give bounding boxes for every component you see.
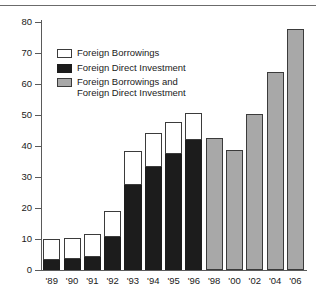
bar-segment-borrowings[interactable] <box>64 238 81 259</box>
bar-segment-combined[interactable] <box>267 72 284 270</box>
x-axis-tick-label: '04 <box>267 276 284 286</box>
legend-item[interactable]: Foreign Borrowings and Foreign Direct In… <box>57 77 222 98</box>
y-axis-tick-label: 30 <box>21 172 32 182</box>
y-axis-tick <box>35 177 41 178</box>
y-axis-tick-label: 80 <box>21 17 32 27</box>
x-axis-tick-label: '96 <box>185 276 202 286</box>
y-axis-tick-label: 50 <box>21 110 32 120</box>
x-axis-tick-label: '91 <box>84 276 101 286</box>
x-axis-tick-label: '95 <box>165 276 182 286</box>
bar-segment-borrowings[interactable] <box>43 239 60 260</box>
bar-group[interactable] <box>267 22 284 270</box>
bar-segment-fdi[interactable] <box>145 167 162 270</box>
x-axis-tick-label: '90 <box>64 276 81 286</box>
y-axis-tick <box>35 208 41 209</box>
y-axis-tick <box>35 270 41 271</box>
bar-segment-fdi[interactable] <box>104 237 121 270</box>
bar-segment-fdi[interactable] <box>124 185 141 270</box>
bar-segment-borrowings[interactable] <box>165 122 182 153</box>
x-axis-tick-label: '93 <box>124 276 141 286</box>
bar-segment-borrowings[interactable] <box>124 151 141 184</box>
bar-segment-borrowings[interactable] <box>185 113 202 140</box>
y-axis-tick-label: 20 <box>21 203 32 213</box>
bar-segment-borrowings[interactable] <box>145 133 162 167</box>
y-axis-tick <box>35 115 41 116</box>
legend-swatch-white <box>57 49 72 58</box>
bar-segment-fdi[interactable] <box>43 260 60 270</box>
x-axis-tick-label: '02 <box>246 276 263 286</box>
legend-item-label: Foreign Borrowings <box>77 48 159 59</box>
bar-segment-combined[interactable] <box>226 150 243 270</box>
bar-segment-combined[interactable] <box>206 138 223 270</box>
legend-swatch-gray <box>57 78 72 87</box>
legend-item[interactable]: Foreign Direct Investment <box>57 63 222 74</box>
bar-segment-combined[interactable] <box>287 29 304 270</box>
legend-swatch-black <box>57 64 72 73</box>
x-axis-tick-label: '06 <box>287 276 304 286</box>
y-axis-tick <box>35 239 41 240</box>
bar-segment-combined[interactable] <box>246 114 263 270</box>
y-axis-tick-label: 60 <box>21 79 32 89</box>
y-axis-tick-label: 70 <box>21 48 32 58</box>
legend-item-label: Foreign Borrowings and Foreign Direct In… <box>77 77 186 98</box>
x-axis-tick-label: '94 <box>145 276 162 286</box>
bar-group[interactable] <box>226 22 243 270</box>
x-axis-tick-label: '89 <box>43 276 60 286</box>
x-axis-tick-label: '98 <box>206 276 223 286</box>
bar-group[interactable] <box>287 22 304 270</box>
bar-segment-borrowings[interactable] <box>84 234 101 256</box>
legend-item[interactable]: Foreign Borrowings <box>57 48 222 59</box>
bar-group[interactable] <box>246 22 263 270</box>
y-axis-tick-label: 10 <box>21 234 32 244</box>
y-axis-tick-label: 0 <box>27 265 32 275</box>
bar-segment-fdi[interactable] <box>84 257 101 270</box>
x-axis-line <box>41 270 307 271</box>
chart-legend: Foreign BorrowingsForeign Direct Investm… <box>57 48 222 102</box>
y-axis-tick-label: 40 <box>21 141 32 151</box>
bar-segment-fdi[interactable] <box>64 259 81 270</box>
y-axis-tick <box>35 22 41 23</box>
chart-figure: 01020304050607080 '89'90'91'92'93'94'95'… <box>0 0 316 299</box>
y-axis-tick <box>35 53 41 54</box>
legend-item-label: Foreign Direct Investment <box>77 63 186 74</box>
bar-segment-fdi[interactable] <box>165 154 182 270</box>
plot-area: 01020304050607080 '89'90'91'92'93'94'95'… <box>0 0 316 299</box>
y-axis-tick <box>35 84 41 85</box>
y-axis-line <box>41 20 42 271</box>
x-axis-tick-label: '92 <box>104 276 121 286</box>
bar-segment-fdi[interactable] <box>185 140 202 270</box>
bar-segment-borrowings[interactable] <box>104 211 121 236</box>
y-axis-tick <box>35 146 41 147</box>
x-axis-tick-label: '00 <box>226 276 243 286</box>
